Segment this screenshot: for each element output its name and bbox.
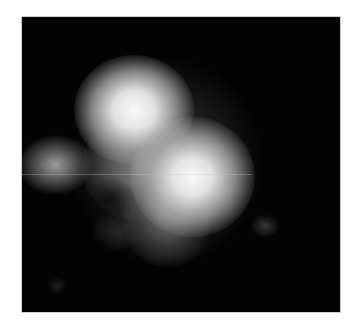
faint-speck-bottom	[90, 212, 145, 252]
scan-streak	[22, 174, 252, 175]
microscopy-image	[21, 16, 341, 313]
right-bright-blob	[130, 117, 255, 237]
faint-speck-right	[250, 214, 280, 238]
faint-speck-lower-left	[47, 277, 67, 295]
